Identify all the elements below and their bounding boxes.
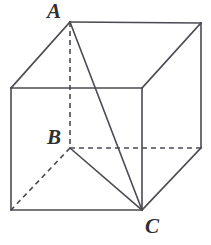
bottom-left-diagonal-edge bbox=[11, 148, 70, 210]
geometry-figure: A B C bbox=[0, 0, 211, 245]
top-left-diagonal-edge bbox=[11, 22, 70, 88]
bottom-right-diagonal-edge bbox=[142, 148, 201, 210]
vertex-label-a: A bbox=[47, 1, 61, 22]
cube-diagram bbox=[0, 0, 211, 245]
segment-B-C bbox=[70, 148, 142, 210]
top-right-diagonal-edge bbox=[142, 23, 201, 88]
vertex-label-b: B bbox=[47, 127, 61, 148]
triangle-abc-group bbox=[70, 22, 142, 210]
segment-A-C bbox=[70, 22, 142, 210]
vertex-label-c: C bbox=[145, 216, 159, 237]
top-back-edge bbox=[70, 22, 201, 23]
